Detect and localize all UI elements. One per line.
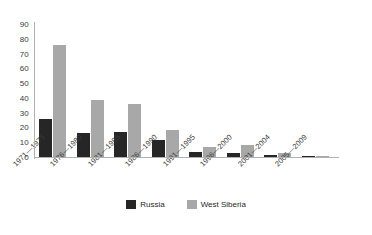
y-axis-tick-label: 60 (20, 64, 29, 73)
legend-swatch-icon (126, 200, 136, 209)
legend-item-russia[interactable]: Russia (126, 200, 164, 209)
legend-item-siberia[interactable]: West Siberia (187, 200, 246, 209)
legend-label: West Siberia (201, 200, 246, 209)
y-axis-tick-label: 40 (20, 93, 29, 102)
legend-label: Russia (140, 200, 164, 209)
y-axis-tick-label: 90 (20, 20, 29, 29)
y-axis-tick-label: 50 (20, 79, 29, 88)
y-axis-tick-label: 20 (20, 123, 29, 132)
bar-west-siberia (53, 45, 66, 157)
y-axis-line (34, 22, 35, 159)
y-axis-tick-label: 70 (20, 49, 29, 58)
y-axis-tick-label: 80 (20, 34, 29, 43)
y-axis-tick-label: 30 (20, 108, 29, 117)
chart-legend: RussiaWest Siberia (0, 200, 372, 209)
bar-chart: 9080706050403020100 1971—19751976—198019… (0, 0, 372, 235)
legend-swatch-icon (187, 200, 197, 209)
x-axis-line (34, 157, 339, 158)
